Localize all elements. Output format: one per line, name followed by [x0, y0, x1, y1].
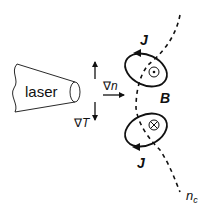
- laser-top-edge: [17, 64, 75, 82]
- grad-t-label: ∇T: [73, 116, 91, 130]
- field-into-page-icon: [149, 120, 159, 130]
- lower-current-label: J: [137, 155, 146, 171]
- laser-aperture-ellipse: [70, 82, 80, 102]
- grad-n-var: n: [111, 79, 118, 93]
- laser-cut-edge: [13, 64, 17, 112]
- upper-loop-arrow-icon: [133, 49, 141, 57]
- upper-current-label: J: [140, 32, 149, 48]
- laser-label: laser: [25, 83, 58, 100]
- grad-n-label: ∇n: [102, 79, 118, 93]
- laser-bottom-edge: [15, 102, 75, 112]
- critical-density-main: n: [186, 188, 193, 203]
- upper-loop-ellipse: [120, 47, 173, 93]
- grad-t-var: T: [82, 116, 91, 130]
- field-out-of-page-icon: [149, 67, 159, 77]
- lower-loop-arrow-icon: [132, 143, 140, 151]
- laser-beam: laser: [13, 64, 80, 112]
- upper-current-loop: J: [120, 32, 173, 93]
- density-gradient: ∇n: [102, 79, 124, 95]
- critical-density-label: nc: [186, 188, 198, 205]
- lower-current-loop: J: [120, 107, 173, 171]
- magnetic-field-label: B: [160, 90, 170, 106]
- critical-density-subscript: c: [193, 195, 198, 205]
- laser-magnetic-field-diagram: laser ∇T ∇n J J: [0, 0, 211, 215]
- lower-loop-ellipse: [120, 107, 173, 153]
